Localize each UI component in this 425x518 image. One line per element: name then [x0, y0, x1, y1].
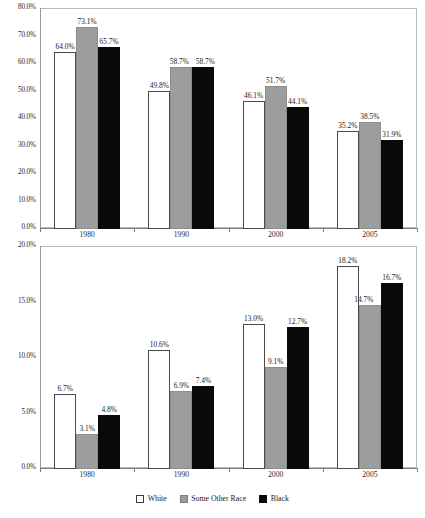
x-axis-tick-mark: [417, 229, 418, 232]
chart-legend: WhiteSome Other RaceBlack: [0, 495, 425, 503]
legend-label: Some Other Race: [191, 495, 246, 503]
y-axis-tick-label: 5.0%: [0, 409, 36, 416]
bar-some-other-race-2005: [359, 305, 381, 469]
bar-black-2005: [381, 140, 403, 229]
x-axis-tick-mark: [417, 469, 418, 472]
bar-value-label: 18.2%: [335, 257, 361, 265]
legend-swatch-black-icon: [259, 495, 267, 503]
bar-some-other-race-1990: [170, 67, 192, 229]
bar-black-1990: [192, 67, 214, 229]
y-axis-tick-label: 0.0%: [0, 224, 36, 231]
figure: Did Not Graduate High School 80.0%70.0%6…: [0, 0, 425, 518]
bar-some-other-race-1980: [76, 27, 98, 229]
bar-value-label: 14.7%: [351, 296, 377, 304]
bar-value-label: 6.7%: [52, 385, 78, 393]
bar-value-label: 3.1%: [74, 425, 100, 433]
x-axis-category-label: 2000: [229, 231, 323, 239]
bar-value-label: 9.1%: [263, 358, 289, 366]
bar-value-label: 44.1%: [285, 98, 311, 106]
y-axis-tick-label: 20.0%: [0, 169, 36, 176]
bar-value-label: 58.7%: [192, 58, 218, 66]
bar-white-2000: [243, 324, 265, 469]
y-axis-tick-label: 50.0%: [0, 87, 36, 94]
bar-value-label: 51.7%: [263, 77, 289, 85]
y-axis-tick-label: 30.0%: [0, 142, 36, 149]
x-axis-category-label: 2005: [323, 231, 417, 239]
y-axis-tick-label: 10.0%: [0, 197, 36, 204]
bar-value-label: 49.8%: [146, 82, 172, 90]
bar-value-label: 38.5%: [357, 113, 383, 121]
bar-white-1980: [54, 394, 76, 469]
bar-white-1980: [54, 52, 76, 229]
legend-label: White: [148, 495, 167, 503]
y-axis-tick-label: 60.0%: [0, 59, 36, 66]
bar-value-label: 35.2%: [335, 122, 361, 130]
bar-black-2005: [381, 283, 403, 469]
bar-white-2005: [337, 131, 359, 229]
y-axis-line: [40, 8, 41, 229]
y-axis-tick-label: 15.0%: [0, 298, 36, 305]
x-axis-category-label: 2005: [323, 471, 417, 479]
y-axis-line: [40, 246, 41, 469]
y-axis-tick-label: 0.0%: [0, 464, 36, 471]
bar-some-other-race-1990: [170, 391, 192, 469]
bar-value-label: 73.1%: [74, 18, 100, 26]
y-axis-tick-label: 10.0%: [0, 353, 36, 360]
bar-value-label: 64.0%: [52, 43, 78, 51]
legend-item-black[interactable]: Black: [259, 495, 289, 503]
y-axis-tick-label: 70.0%: [0, 32, 36, 39]
bar-value-label: 65.7%: [96, 38, 122, 46]
bar-value-label: 10.6%: [146, 341, 172, 349]
bar-black-1980: [98, 415, 120, 469]
bar-some-other-race-2000: [265, 367, 287, 469]
bar-white-1990: [148, 350, 170, 469]
bar-some-other-race-1980: [76, 434, 98, 469]
bar-value-label: 31.9%: [379, 131, 405, 139]
x-axis-category-label: 2000: [229, 471, 323, 479]
y-axis-tick-label: 80.0%: [0, 4, 36, 11]
bar-value-label: 58.7%: [166, 58, 192, 66]
bar-black-2000: [287, 107, 309, 229]
bar-value-label: 13.0%: [241, 315, 267, 323]
bar-white-1990: [148, 91, 170, 229]
legend-label: Black: [271, 495, 289, 503]
y-axis-tick-label: 40.0%: [0, 114, 36, 121]
bar-value-label: 4.8%: [96, 406, 122, 414]
bar-some-other-race-2000: [265, 86, 287, 229]
bar-some-other-race-2005: [359, 122, 381, 229]
legend-item-some-other-race[interactable]: Some Other Race: [180, 495, 247, 503]
legend-item-white[interactable]: White: [136, 495, 167, 503]
bar-value-label: 46.1%: [241, 92, 267, 100]
legend-swatch-gray-icon: [180, 495, 188, 503]
y-axis-tick-label: 20.0%: [0, 242, 36, 249]
x-axis-category-label: 1980: [40, 471, 134, 479]
x-axis-category-label: 1980: [40, 231, 134, 239]
x-axis-category-label: 1990: [134, 231, 228, 239]
bar-value-label: 16.7%: [379, 274, 405, 282]
bar-value-label: 7.4%: [190, 377, 216, 385]
bar-black-1980: [98, 47, 120, 229]
bar-white-2000: [243, 101, 265, 229]
bar-value-label: 12.7%: [285, 318, 311, 326]
bar-black-2000: [287, 327, 309, 469]
bar-black-1990: [192, 386, 214, 469]
legend-swatch-white-icon: [136, 495, 144, 503]
x-axis-category-label: 1990: [134, 471, 228, 479]
